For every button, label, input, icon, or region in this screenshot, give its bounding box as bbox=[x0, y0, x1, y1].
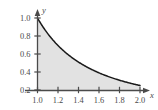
x-tick-label: 1.0 bbox=[32, 96, 42, 105]
x-tick-label: 1.8 bbox=[114, 96, 124, 105]
y-tick-label: 0.8 bbox=[20, 32, 30, 41]
chart-figure: 0.20.40.60.81.0 1.01.21.41.61.82.0 y x bbox=[0, 0, 158, 110]
y-axis-label: y bbox=[41, 5, 46, 15]
x-tick-label: 1.6 bbox=[94, 96, 104, 105]
x-axis-tick-labels: 1.01.21.41.61.82.0 bbox=[32, 96, 145, 105]
y-tick-label: 1.0 bbox=[20, 14, 30, 23]
y-axis-tick-labels: 0.20.40.60.81.0 bbox=[20, 14, 31, 95]
x-tick-label: 1.2 bbox=[53, 96, 63, 105]
shaded-area-region bbox=[38, 18, 141, 90]
x-axis-label: x bbox=[149, 90, 154, 100]
y-tick-label: 0.6 bbox=[20, 50, 30, 59]
area-chart-plot: 0.20.40.60.81.0 1.01.21.41.61.82.0 y x bbox=[0, 0, 158, 110]
y-axis-arrow-icon bbox=[35, 9, 41, 16]
y-tick-label: 0.4 bbox=[20, 68, 31, 77]
x-tick-label: 1.4 bbox=[73, 96, 84, 105]
x-axis-arrow-icon bbox=[143, 88, 150, 94]
y-tick-label: 0.2 bbox=[20, 86, 30, 95]
x-tick-label: 2.0 bbox=[135, 96, 145, 105]
